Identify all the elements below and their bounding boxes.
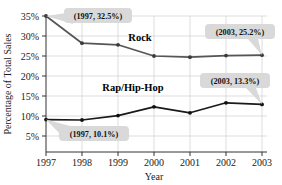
- x-tick-label-1997: 1997: [36, 157, 56, 168]
- rap-point-1999: [116, 114, 120, 118]
- y-tick-label-25: 25%: [21, 51, 39, 62]
- y-tick-label-10: 10%: [21, 111, 39, 122]
- callout-label-rap-1997: (1997, 10.1%): [70, 130, 119, 139]
- series-label-rap: Rap/Hip-Hop: [102, 82, 163, 93]
- y-tick-label-5: 5%: [26, 131, 39, 142]
- rock-point-2002: [224, 54, 228, 58]
- x-axis-title: Year: [145, 171, 164, 182]
- y-tick-label-35: 35%: [21, 11, 39, 22]
- y-axis-title: Percentage of Total Sales: [2, 33, 13, 134]
- x-tick-label-1999: 1999: [108, 157, 128, 168]
- callout-label-rock-1997: (1997, 32.5%): [74, 12, 123, 21]
- y-tick-label-20: 20%: [21, 71, 39, 82]
- x-tick-label-2000: 2000: [144, 157, 164, 168]
- y-tick-label-15: 15%: [21, 91, 39, 102]
- rap-point-1998: [80, 118, 84, 122]
- rock-point-1999: [116, 43, 120, 47]
- rock-point-2001: [188, 55, 192, 59]
- rock-point-2003: [260, 53, 264, 57]
- rap-point-2000: [152, 105, 156, 109]
- x-tick-label-2001: 2001: [180, 157, 200, 168]
- series-label-rock: Rock: [128, 32, 151, 43]
- rock-point-1998: [80, 41, 84, 45]
- y-tick-label-30: 30%: [21, 31, 39, 42]
- callout-label-rap-2003: (2003, 13.3%): [211, 77, 260, 86]
- chart-canvas: 35% 30% 25% 20% 15% 10% 5% 1997 1998 199…: [0, 0, 282, 185]
- x-tick-label-1998: 1998: [72, 157, 92, 168]
- rock-point-2000: [152, 54, 156, 58]
- x-axis-ticks: [46, 152, 262, 156]
- x-tick-label-2003: 2003: [252, 157, 272, 168]
- line-chart: 35% 30% 25% 20% 15% 10% 5% 1997 1998 199…: [0, 0, 282, 185]
- rap-point-2001: [188, 111, 192, 115]
- rap-point-2002: [224, 101, 228, 105]
- x-tick-label-2002: 2002: [216, 157, 236, 168]
- callout-label-rock-2003: (2003, 25.2%): [216, 28, 265, 37]
